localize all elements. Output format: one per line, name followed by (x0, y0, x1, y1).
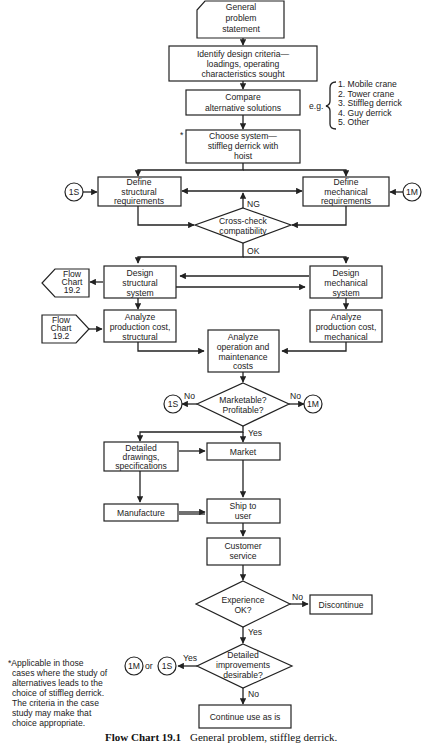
node-label: requirements (114, 196, 164, 206)
connector-1s-marketable[interactable]: 1S (164, 395, 182, 413)
connector-1m-top[interactable]: 1M (403, 183, 421, 201)
alternative-item: 5. Other (338, 117, 369, 127)
connector-label: 1S (168, 399, 179, 409)
node-label: stiffleg derrick with (208, 141, 279, 151)
footnote: *Applicable in those cases where the stu… (8, 658, 108, 728)
node-label: Compare (225, 92, 261, 102)
node-label: Ship to (230, 501, 257, 511)
edge-label-yes: Yes (248, 428, 262, 438)
node-detailed-improvements[interactable]: Detailed improvements desirable? (197, 644, 292, 688)
connector-1m-marketable[interactable]: 1M (304, 395, 322, 413)
node-operation-maintenance-costs[interactable]: Analyze operation and maintenance costs (208, 330, 279, 372)
node-manufacture[interactable]: Manufacture (104, 504, 178, 521)
or-label: or (145, 661, 153, 671)
node-detailed-drawings[interactable]: Detailed drawings, specifications (104, 442, 178, 471)
node-label: Detailed (227, 650, 259, 660)
node-label: problem (225, 13, 256, 23)
asterisk-marker: * (180, 130, 184, 140)
node-general-problem-statement[interactable]: General problem statement (197, 1, 284, 38)
node-label: Design (127, 268, 154, 278)
node-discontinue[interactable]: Discontinue (310, 595, 372, 614)
node-label: costs (233, 361, 253, 371)
alternative-item: 3. Stiffleg derrick (338, 98, 403, 108)
node-label: 19.2 (64, 285, 81, 295)
node-label: Identify design criteria— (197, 49, 290, 59)
edge-label-ok: OK (247, 246, 260, 256)
node-label: loadings, operating (207, 59, 280, 69)
edge-label-no: No (290, 391, 301, 401)
node-label: OK? (234, 605, 251, 615)
node-label: mechanical (324, 332, 368, 342)
node-label: desirable? (223, 670, 263, 680)
node-customer-service[interactable]: Customer service (207, 538, 280, 565)
edge-label-ng: NG (247, 199, 260, 209)
footnote-line: choice of stiffleg derrick. (12, 688, 104, 698)
node-ship-to-user[interactable]: Ship to user (207, 499, 280, 523)
node-production-cost-structural[interactable]: Analyze production cost, structural (104, 310, 176, 342)
node-label: Choose system— (209, 131, 277, 141)
node-choose-system[interactable]: Choose system— stiffleg derrick with hoi… (186, 130, 300, 163)
node-label: Marketable? (219, 395, 267, 405)
node-label: requirements (321, 196, 371, 206)
offpage-flow-chart-19-2-in[interactable]: Flow Chart 19.2 (42, 315, 89, 343)
node-label: alternative solutions (205, 103, 281, 113)
node-label: Cross-check (219, 216, 267, 226)
node-continue-use[interactable]: Continue use as is (199, 705, 291, 728)
alternatives-list: e.g. 1. Mobile crane 2. Tower crane 3. S… (309, 79, 403, 129)
node-label: Customer (224, 541, 261, 551)
node-experience-ok[interactable]: Experience OK? (196, 581, 290, 627)
connector-1s-top[interactable]: 1S (65, 183, 83, 201)
node-label: user (235, 511, 252, 521)
connector-1m-improvements[interactable]: 1M (125, 657, 143, 675)
node-define-structural[interactable]: Define structural requirements (98, 177, 181, 206)
node-cross-check-compatibility[interactable]: Cross-check compatibility (195, 208, 291, 243)
node-label: production cost, (110, 322, 171, 332)
caption-text: General problem, stiffleg derrick. (190, 731, 338, 743)
connector-1s-improvements[interactable]: 1S (158, 657, 176, 675)
node-marketable-profitable[interactable]: Marketable? Profitable? (197, 383, 289, 426)
footnote-line: alternatives leads to the (12, 678, 103, 688)
node-label: Manufacture (117, 508, 165, 518)
node-label: service (229, 551, 256, 561)
node-label: Analyze (331, 312, 362, 322)
connector-label: 1M (128, 661, 140, 671)
node-label: specifications (115, 461, 167, 471)
connector-label: 1S (162, 661, 173, 671)
node-label: General (226, 2, 257, 12)
edge-label-yes: Yes (248, 627, 262, 637)
node-design-mechanical[interactable]: Design mechanical system (310, 266, 382, 298)
node-label: Continue use as is (210, 712, 281, 722)
edge-label-yes: Yes (183, 653, 197, 663)
connector-label: 1S (69, 187, 80, 197)
node-define-mechanical[interactable]: Define mechanical requirements (303, 177, 389, 206)
flowchart-canvas: General problem statement Identify desig… (0, 0, 426, 746)
connector-label: 1M (307, 399, 319, 409)
node-label: Market (230, 447, 257, 457)
node-label: structural (122, 332, 157, 342)
node-label: mechanical (324, 278, 368, 288)
edge-label-no: No (184, 391, 195, 401)
node-label: operation and (217, 342, 270, 352)
caption-label: Flow Chart 19.1 (105, 731, 181, 743)
footnote-line: study may make that (12, 708, 92, 718)
node-label: Define (334, 177, 359, 187)
node-label: system (126, 288, 153, 298)
edge-label-no: No (292, 592, 303, 602)
node-compare-alternatives[interactable]: Compare alternative solutions (186, 90, 300, 115)
node-market[interactable]: Market (207, 443, 280, 460)
node-label: Experience (222, 595, 265, 605)
connector-label: 1M (406, 187, 418, 197)
node-label: Define (127, 177, 152, 187)
node-design-structural[interactable]: Design structural system (104, 266, 176, 298)
node-label: compatibility (219, 226, 267, 236)
node-label: structural (122, 278, 157, 288)
eg-label: e.g. (309, 101, 323, 111)
offpage-flow-chart-19-2-out[interactable]: Flow Chart 19.2 (42, 269, 89, 297)
footnote-line: The criteria in the case (12, 698, 99, 708)
node-identify-design-criteria[interactable]: Identify design criteria— loadings, oper… (169, 46, 317, 81)
node-label: improvements (216, 660, 270, 670)
figure-caption: Flow Chart 19.1 General problem, stiffle… (105, 731, 338, 743)
node-label: Analyze (228, 332, 259, 342)
node-production-cost-mechanical[interactable]: Analyze production cost, mechanical (310, 310, 382, 342)
footnote-line: choice appropriate. (12, 718, 85, 728)
